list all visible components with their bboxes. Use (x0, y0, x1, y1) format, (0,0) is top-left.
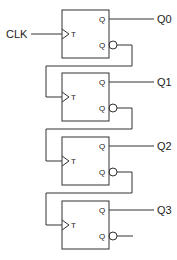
inversion-bubble-icon (109, 41, 117, 49)
qbar-label: Q (99, 104, 105, 113)
feedback-wire (46, 172, 132, 225)
feedback-wire (46, 108, 132, 161)
q-label: Q (99, 206, 105, 215)
clk-label: CLK (6, 28, 28, 40)
q-label: Q (99, 142, 105, 151)
inversion-bubble-icon (109, 168, 117, 176)
clock-triangle-icon (62, 156, 69, 166)
q-label: Q (99, 15, 105, 24)
qbar-label: Q (99, 168, 105, 177)
qbar-label: Q (99, 232, 105, 241)
inversion-bubble-icon (109, 232, 117, 240)
clock-triangle-icon (62, 220, 69, 230)
output-label: Q2 (157, 140, 172, 152)
clock-triangle-icon (62, 92, 69, 102)
output-label: Q3 (157, 204, 172, 216)
t-input-label: T (71, 221, 76, 230)
feedback-wire (46, 45, 132, 97)
qbar-label: Q (99, 41, 105, 50)
t-input-label: T (71, 157, 76, 166)
q-label: Q (99, 78, 105, 87)
clock-triangle-icon (62, 29, 69, 39)
t-input-label: T (71, 30, 76, 39)
inversion-bubble-icon (109, 104, 117, 112)
output-label: Q0 (157, 13, 172, 25)
output-label: Q1 (157, 76, 172, 88)
ripple-counter-diagram: CLK TQQ0QTQQ1QTQQ2QTQQ3Q (0, 0, 177, 260)
flip-flop-3: TQQ3Q (62, 201, 172, 249)
t-input-label: T (71, 93, 76, 102)
